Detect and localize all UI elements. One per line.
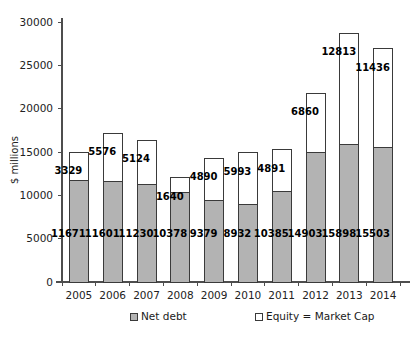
bar-segment-net-debt (238, 205, 257, 282)
equity-value-label: 3329 (54, 165, 82, 176)
net-debt-value-label: 10385 (254, 228, 289, 239)
equity-value-label: 5576 (88, 146, 116, 157)
chart-canvas: 050001000015000200002500030000 200520062… (0, 0, 415, 346)
bar-segment-equity (306, 93, 325, 152)
y-tick-label: 30000 (20, 16, 53, 28)
y-tick-label: 15000 (20, 146, 53, 158)
chart-legend: Net debtEquity = Market Cap (130, 310, 375, 322)
bar-segment-equity (238, 153, 257, 205)
bar-segment-net-debt (205, 201, 224, 282)
equity-value-label: 6860 (291, 106, 319, 117)
legend-swatch (255, 313, 262, 320)
equity-value-label: 12813 (321, 46, 356, 57)
net-debt-value-label: 11230 (119, 228, 154, 239)
equity-value-label: 5993 (223, 166, 251, 177)
x-tick-label: 2010 (235, 289, 262, 301)
bars-layer (69, 33, 392, 282)
x-tick-label: 2005 (66, 289, 93, 301)
x-tick-label: 2011 (268, 289, 295, 301)
x-tick-label: 2008 (167, 289, 194, 301)
bar-segment-net-debt (306, 153, 325, 282)
net-debt-value-label: 11601 (85, 228, 120, 239)
y-tick-label: 0 (46, 276, 53, 288)
equity-value-label: 1640 (156, 191, 184, 202)
net-debt-value-label: 11671 (51, 228, 86, 239)
x-tick-label: 2007 (133, 289, 160, 301)
equity-value-label: 11436 (355, 62, 390, 73)
net-debt-value-label: 8932 (223, 228, 251, 239)
net-debt-value-label: 10378 (152, 228, 187, 239)
x-tick-label: 2013 (336, 289, 363, 301)
legend-label: Net debt (141, 310, 187, 322)
bar-segment-equity (103, 133, 122, 181)
x-tick-label: 2012 (302, 289, 329, 301)
stacked-bar-chart: 050001000015000200002500030000 200520062… (0, 0, 415, 346)
y-tick-label: 5000 (26, 232, 53, 244)
net-debt-value-label: 15503 (355, 228, 390, 239)
y-tick-label: 20000 (20, 102, 53, 114)
equity-value-label: 4890 (190, 171, 218, 182)
bar-segment-net-debt (374, 148, 393, 282)
x-tick-label: 2006 (99, 289, 126, 301)
y-axis: 050001000015000200002500030000 (20, 16, 62, 288)
y-tick-label: 10000 (20, 189, 53, 201)
legend-label: Equity = Market Cap (266, 310, 375, 322)
y-tick-label: 25000 (20, 59, 53, 71)
equity-value-label: 5124 (122, 153, 150, 164)
x-tick-label: 2009 (201, 289, 228, 301)
net-debt-value-label: 9379 (190, 228, 218, 239)
bar-segment-net-debt (340, 144, 359, 282)
x-tick-label: 2014 (370, 289, 397, 301)
net-debt-value-label: 14903 (288, 228, 323, 239)
x-axis: 2005200620072008200920102011201220132014 (56, 282, 410, 301)
legend-swatch (130, 313, 137, 320)
net-debt-value-label: 15898 (321, 228, 356, 239)
y-axis-title: $ millions (9, 136, 20, 184)
equity-value-label: 4891 (257, 163, 285, 174)
